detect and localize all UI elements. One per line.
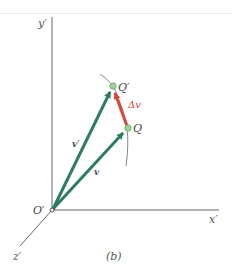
y-axis-label: y′ [37,17,47,30]
delta-v-label: Δv [127,99,141,110]
point-q-prime [110,83,116,89]
figure-caption: (b) [106,250,122,263]
relative-velocity-diagram: y′ x′ z′ O′ Q′ Q Δv v′ v (b) [0,0,232,280]
q-prime-label: Q′ [118,81,130,94]
origin-point [50,208,54,212]
point-q [125,125,131,131]
v-label: v [94,167,100,177]
z-axis-label: z′ [12,250,22,263]
v-prime-vector [53,92,110,209]
origin-label: O′ [33,204,45,217]
v-vector [53,133,123,209]
v-prime-label: v′ [72,139,80,149]
x-axis-label: x′ [209,213,218,226]
q-label: Q [133,122,142,135]
delta-v-vector [115,93,127,126]
